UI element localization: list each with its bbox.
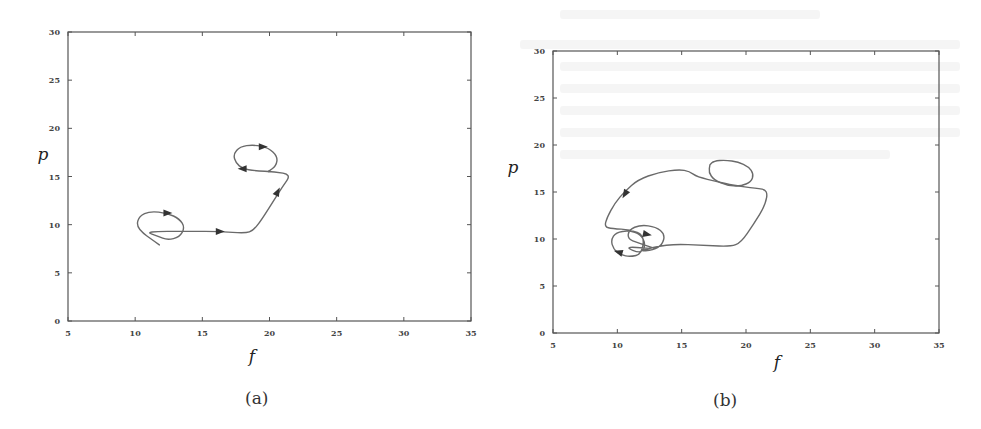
plot-frame: [553, 51, 939, 333]
x-axis-label: f: [772, 352, 783, 372]
trajectory-line: [605, 170, 766, 256]
x-tick-label: 30: [398, 328, 410, 338]
y-tick-label: 5: [539, 281, 545, 291]
direction-arrow-icon: [642, 230, 652, 239]
trajectory-line: [709, 160, 753, 186]
y-tick-label: 15: [534, 187, 545, 197]
y-axis-label: p: [38, 144, 49, 164]
x-tick-label: 20: [740, 340, 752, 350]
direction-arrow-icon: [259, 143, 268, 150]
x-tick-label: 25: [331, 328, 342, 338]
y-tick-label: 10: [49, 220, 61, 230]
x-tick-label: 15: [197, 328, 208, 338]
trajectory-line: [137, 145, 288, 245]
y-tick-label: 5: [54, 268, 60, 278]
x-tick-label: 30: [869, 340, 881, 350]
y-tick-label: 20: [49, 123, 61, 133]
y-tick-label: 10: [534, 234, 546, 244]
panel-b-plot: 5101520253035051015202530fp: [508, 46, 945, 372]
y-tick-label: 0: [54, 316, 60, 326]
y-axis-label: p: [508, 157, 519, 177]
y-tick-label: 20: [534, 140, 546, 150]
y-tick-label: 25: [534, 93, 545, 103]
x-tick-label: 20: [264, 328, 276, 338]
direction-arrow-icon: [619, 189, 630, 200]
caption-panel-a: (a): [245, 388, 268, 408]
y-tick-label: 30: [534, 46, 546, 56]
y-tick-label: 30: [49, 27, 61, 37]
direction-arrow-icon: [216, 228, 225, 235]
x-tick-label: 10: [130, 328, 142, 338]
x-tick-label: 35: [933, 340, 944, 350]
x-tick-label: 5: [550, 340, 556, 350]
y-tick-label: 25: [49, 75, 60, 85]
x-tick-label: 25: [805, 340, 816, 350]
panel-a-plot: 5101520253035051015202530fp: [38, 27, 477, 366]
figure-canvas: 5101520253035051015202530fp 510152025303…: [0, 0, 981, 429]
plot-frame: [68, 32, 471, 321]
x-tick-label: 10: [612, 340, 624, 350]
y-tick-label: 0: [539, 328, 545, 338]
x-tick-label: 5: [65, 328, 71, 338]
y-tick-label: 15: [49, 172, 60, 182]
x-axis-label: f: [247, 346, 258, 366]
x-tick-label: 35: [465, 328, 476, 338]
caption-panel-b: (b): [713, 390, 737, 410]
x-tick-label: 15: [676, 340, 687, 350]
